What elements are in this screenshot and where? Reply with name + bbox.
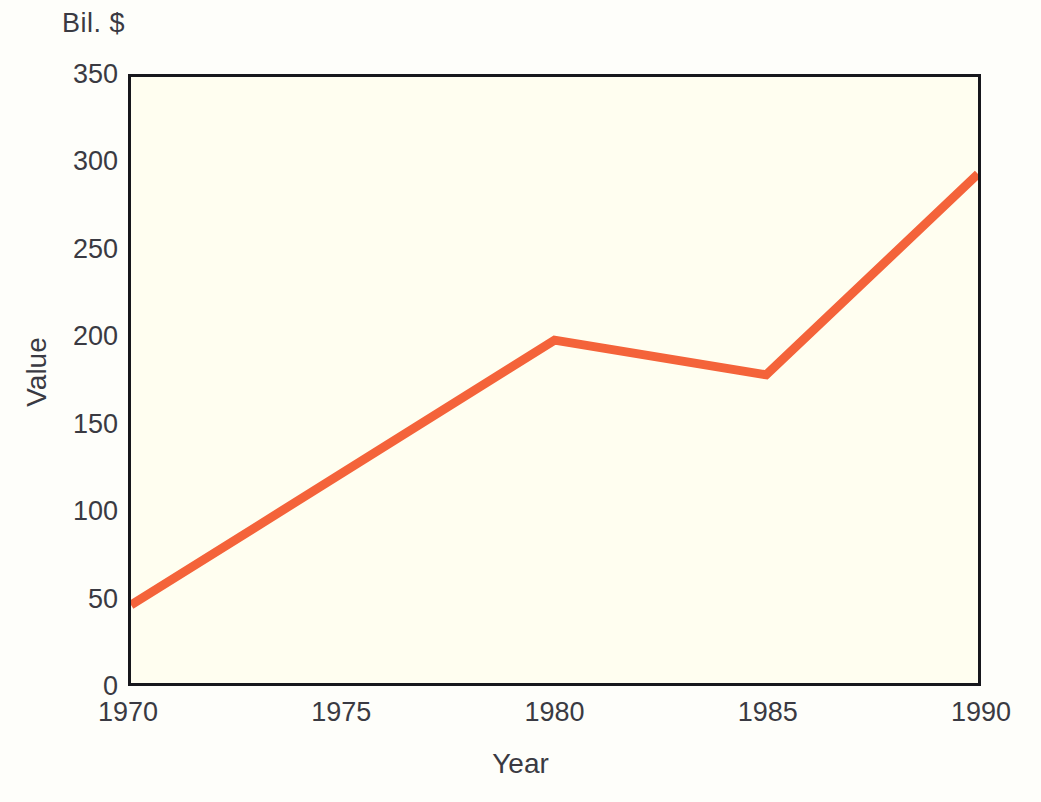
y-tick-label: 150: [0, 408, 118, 439]
data-series-line: [131, 174, 978, 605]
y-tick-label: 300: [0, 146, 118, 177]
x-tick-label: 1980: [475, 697, 635, 728]
y-tick-label: 250: [0, 233, 118, 264]
plot-area: [128, 74, 981, 686]
y-axis-tick-labels: 050100150200250300350: [0, 0, 118, 802]
line-chart-figure: Bil. $ Value 050100150200250300350 19701…: [0, 0, 1041, 802]
x-tick-label: 1975: [261, 697, 421, 728]
x-tick-label: 1990: [901, 697, 1041, 728]
x-axis-title: Year: [0, 748, 1041, 780]
y-tick-label: 350: [0, 59, 118, 90]
x-tick-label: 1985: [688, 697, 848, 728]
y-tick-label: 50: [0, 583, 118, 614]
x-tick-label: 1970: [48, 697, 208, 728]
y-tick-label: 100: [0, 496, 118, 527]
plot-svg: [131, 77, 978, 683]
y-tick-label: 200: [0, 321, 118, 352]
